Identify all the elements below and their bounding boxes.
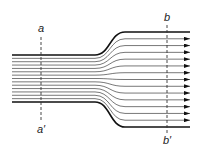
- section-b-top-label: b: [164, 12, 170, 23]
- streamline: [12, 66, 190, 72]
- streamline: [12, 89, 190, 100]
- section-a-bottom-label: a′: [37, 124, 45, 135]
- section-b-bottom-label: b′: [163, 135, 171, 146]
- streamline-svg: [0, 0, 210, 155]
- diverging-channel-diagram: a a′ b b′: [0, 0, 210, 155]
- streamline: [12, 73, 190, 75]
- channel-top-wall: [12, 32, 190, 55]
- section-a-top-label: a: [38, 23, 44, 34]
- streamline: [12, 79, 190, 80]
